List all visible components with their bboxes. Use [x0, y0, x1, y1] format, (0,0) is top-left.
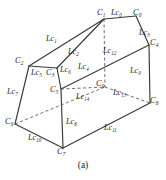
vertex-label-subscript: 7	[63, 151, 66, 157]
edge-label-text: Lc	[46, 34, 54, 43]
edge-label-text: Lc	[139, 28, 147, 37]
vertex-label-c5: C5	[50, 86, 58, 94]
figure-container: C0C1C2C3C4C5C6C7C8C9 Lc0Lc1Lc2Lc3Lc4Lc5L…	[0, 0, 166, 180]
vertex-label-subscript: 5	[56, 89, 59, 95]
vertex-label-c0: C0	[133, 9, 141, 17]
edge-label-text: Lc	[66, 117, 74, 126]
edge-label-text: Lc	[7, 87, 15, 96]
edge-label-subscript: 3	[147, 33, 150, 38]
edge-label-lc11: Lc11	[104, 124, 117, 132]
vertex-label-subscript: 9	[102, 83, 105, 89]
vertex-label-c6: C6	[5, 118, 13, 126]
vertex-label-text: C	[150, 38, 156, 47]
edge-label-subscript: 6	[68, 70, 71, 75]
edge-label-subscript: 7	[15, 92, 18, 97]
edge-label-text: Lc	[31, 68, 39, 77]
edge-lc9	[149, 45, 150, 103]
vertex-label-c7: C7	[57, 148, 65, 156]
edge-label-text: Lc	[68, 47, 76, 56]
edge-label-subscript: 0	[119, 13, 122, 18]
edge-label-subscript: 10	[36, 138, 41, 143]
edge-label-lc7: Lc7	[7, 88, 18, 96]
edge-label-lc2: Lc2	[68, 48, 79, 56]
vertex-label-subscript: 4	[156, 42, 159, 48]
edge-label-text: Lc	[103, 46, 111, 55]
vertex-label-subscript: 6	[11, 121, 14, 127]
edge-label-text: Lc	[60, 65, 68, 74]
edge-label-lc6: Lc6	[60, 66, 71, 74]
edge-label-lc14: Lc14	[76, 93, 89, 101]
edge-label-subscript: 14	[84, 97, 89, 102]
edge-label-lc5: Lc5	[31, 69, 42, 77]
vertex-label-text: C	[57, 147, 63, 156]
edge-label-lc10: Lc10	[28, 134, 41, 142]
edge-lc13	[105, 87, 150, 103]
edge-label-text: Lc	[104, 123, 112, 132]
edge-label-subscript: 2	[76, 52, 79, 57]
vertex-label-subscript: 1	[103, 12, 106, 18]
edge-label-subscript: 1	[54, 39, 57, 44]
vertex-label-subscript: 2	[21, 60, 24, 66]
vertex-label-text: C	[5, 117, 11, 126]
vertex-label-c2: C2	[15, 57, 23, 65]
figure-caption: (a)	[0, 160, 166, 170]
vertex-label-text: C	[96, 79, 102, 88]
edge-label-lc13: Lc13	[113, 89, 126, 97]
wireframe-diagram	[0, 0, 166, 180]
vertex-label-subscript: 8	[156, 100, 159, 106]
edge-label-subscript: 12	[111, 51, 116, 56]
edge-label-text: Lc	[78, 62, 86, 71]
edge-label-text: Lc	[111, 8, 119, 17]
edge-label-lc9: Lc9	[130, 67, 141, 75]
edge-label-lc4: Lc4	[78, 63, 89, 71]
edge-label-lc3: Lc3	[139, 29, 150, 37]
vertex-label-text: C	[97, 8, 103, 17]
edge-hidden-c6-c9	[15, 87, 105, 124]
vertex-label-c4: C4	[150, 39, 158, 47]
edge-label-subscript: 4	[86, 67, 89, 72]
vertex-label-text: C	[150, 96, 156, 105]
vertex-label-c8: C8	[150, 97, 158, 105]
edge-label-text: Lc	[76, 92, 84, 101]
edge-label-subscript: 8	[74, 122, 77, 127]
edge-label-text: Lc	[28, 133, 36, 142]
edge-label-subscript: 9	[138, 71, 141, 76]
vertex-label-text: C	[133, 8, 139, 17]
edge-label-text: Lc	[113, 88, 121, 97]
vertex-label-text: C	[50, 85, 56, 94]
vertex-label-c1: C1	[97, 9, 105, 17]
edge-label-lc12: Lc12	[103, 47, 116, 55]
edge-lc8	[61, 89, 63, 148]
solid-edge-group	[15, 16, 150, 148]
vertex-label-text: C	[46, 68, 52, 77]
edge-label-lc0: Lc0	[111, 9, 122, 17]
vertex-label-subscript: 3	[52, 72, 55, 78]
vertex-label-text: C	[15, 56, 21, 65]
edge-label-text: Lc	[130, 66, 138, 75]
edge-label-subscript: 5	[39, 73, 42, 78]
edge-label-subscript: 11	[112, 128, 117, 133]
edge-label-subscript: 13	[121, 93, 126, 98]
edge-lc1	[29, 19, 104, 66]
edge-label-lc8: Lc8	[66, 118, 77, 126]
vertex-label-subscript: 0	[139, 12, 142, 18]
edge-label-lc1: Lc1	[46, 35, 57, 43]
vertex-label-c3: C3	[46, 69, 54, 77]
vertex-label-c9: C9	[96, 80, 104, 88]
